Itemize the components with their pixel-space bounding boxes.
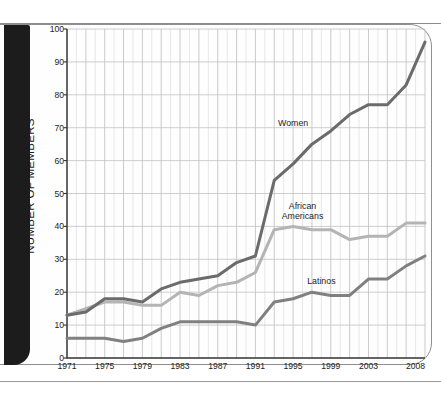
series-annotations: WomenAfrican AmericansLatinos: [0, 0, 441, 407]
page-canvas: NUMBER OF MEMBERS 0102030405060708090100…: [0, 0, 441, 407]
line-chart: NUMBER OF MEMBERS 0102030405060708090100…: [0, 0, 441, 407]
series-annotation-label: Women: [263, 118, 323, 128]
series-annotation-label: African Americans: [273, 201, 333, 221]
series-annotation-label: Latinos: [291, 276, 351, 286]
